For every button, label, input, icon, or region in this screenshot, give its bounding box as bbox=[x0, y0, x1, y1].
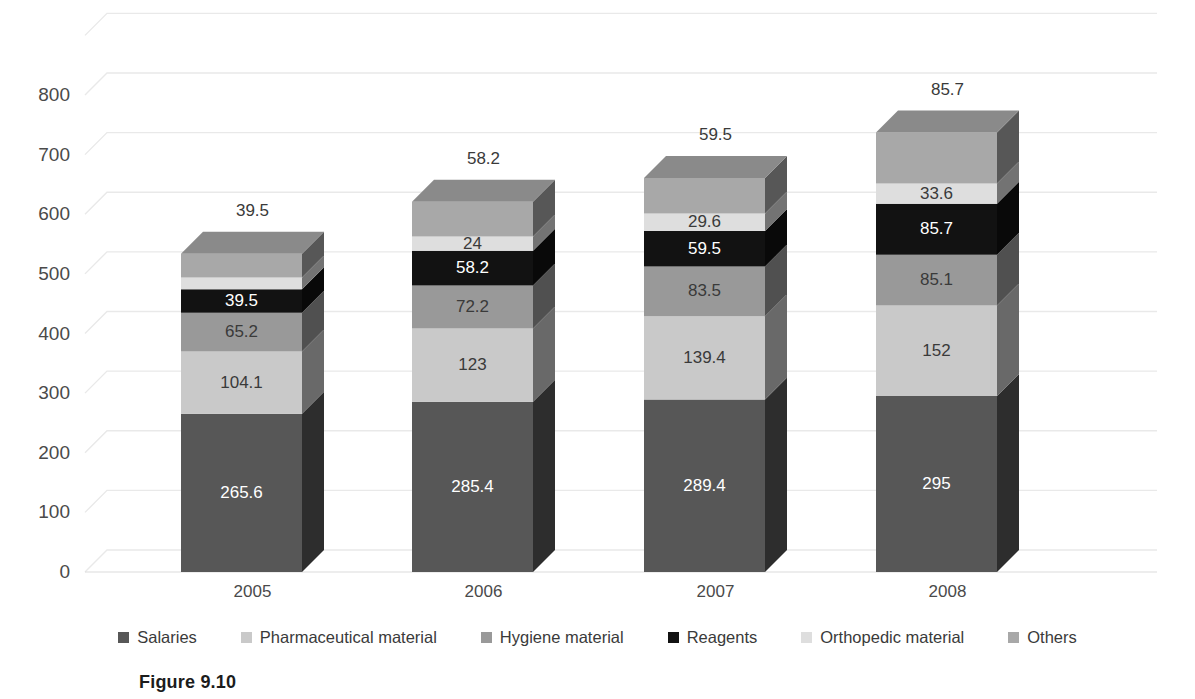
y-axis-tick-label: 700 bbox=[0, 145, 70, 164]
legend-swatch-icon bbox=[118, 632, 129, 643]
bar-total-top-label: 85.7 bbox=[887, 81, 1008, 98]
bar-total-top-label: 39.5 bbox=[192, 202, 313, 219]
y-axis-tick-label: 400 bbox=[0, 324, 70, 343]
bar-segment-front bbox=[181, 254, 302, 278]
bar-column bbox=[412, 180, 555, 572]
bar-total-top-label: 58.2 bbox=[423, 150, 544, 167]
bars-group bbox=[181, 111, 1019, 572]
bar-segment-side bbox=[533, 380, 555, 572]
x-axis-tick-label-2008: 2008 bbox=[858, 583, 1038, 600]
legend-label: Salaries bbox=[137, 629, 197, 646]
chart-figure: 0100200300400500600700800 20052006200720… bbox=[0, 0, 1195, 699]
chart-legend: SalariesPharmaceutical materialHygiene m… bbox=[0, 624, 1195, 650]
legend-item-hygiene-material[interactable]: Hygiene material bbox=[481, 629, 624, 646]
legend-label: Pharmaceutical material bbox=[260, 629, 437, 646]
legend-label: Reagents bbox=[687, 629, 758, 646]
legend-label: Hygiene material bbox=[500, 629, 624, 646]
bar-segment-front bbox=[181, 313, 302, 352]
bar-top-face bbox=[181, 232, 324, 254]
legend-swatch-icon bbox=[668, 632, 679, 643]
y-axis-tick-label: 0 bbox=[0, 562, 70, 581]
legend-label: Orthopedic material bbox=[820, 629, 964, 646]
bar-segment-front bbox=[876, 184, 997, 204]
bar-segment-front bbox=[412, 251, 533, 286]
x-axis-tick-label-2006: 2006 bbox=[394, 583, 574, 600]
legend-label: Others bbox=[1027, 629, 1077, 646]
legend-item-orthopedic-material[interactable]: Orthopedic material bbox=[801, 629, 964, 646]
bar-segment-front bbox=[876, 133, 997, 184]
x-axis-tick-label-2005: 2005 bbox=[163, 583, 343, 600]
bar-segment-front bbox=[181, 277, 302, 289]
bar-segment-front bbox=[876, 396, 997, 572]
bar-segment-front bbox=[181, 352, 302, 414]
bar-segment-front bbox=[412, 236, 533, 250]
bar-column bbox=[181, 232, 324, 572]
bar-column bbox=[876, 111, 1019, 572]
bar-segment-front bbox=[876, 305, 997, 396]
bar-segment-front bbox=[181, 289, 302, 313]
bar-segment-front bbox=[644, 267, 765, 317]
bar-total-top-label: 59.5 bbox=[655, 126, 776, 143]
y-axis-tick-label: 100 bbox=[0, 502, 70, 521]
bar-segment-front bbox=[876, 255, 997, 306]
bar-segment-side bbox=[302, 392, 324, 572]
legend-item-salaries[interactable]: Salaries bbox=[118, 629, 197, 646]
bar-segment-front bbox=[181, 414, 302, 572]
legend-swatch-icon bbox=[1008, 632, 1019, 643]
legend-swatch-icon bbox=[241, 632, 252, 643]
x-axis-tick-label-2007: 2007 bbox=[626, 583, 806, 600]
bar-segment-front bbox=[412, 202, 533, 237]
bar-segment-front bbox=[412, 402, 533, 572]
gridline bbox=[85, 13, 1157, 35]
legend-item-pharmaceutical-material[interactable]: Pharmaceutical material bbox=[241, 629, 437, 646]
bar-segment-front bbox=[644, 231, 765, 266]
bar-segment-side bbox=[997, 374, 1019, 572]
bar-segment-front bbox=[412, 328, 533, 401]
bar-segment-front bbox=[644, 178, 765, 213]
legend-item-others[interactable]: Others bbox=[1008, 629, 1077, 646]
bar-top-face bbox=[412, 180, 555, 202]
legend-item-reagents[interactable]: Reagents bbox=[668, 629, 758, 646]
bar-segment-front bbox=[644, 213, 765, 231]
bar-column bbox=[644, 156, 787, 572]
legend-swatch-icon bbox=[801, 632, 812, 643]
bar-segment-front bbox=[644, 316, 765, 399]
y-axis-tick-label: 800 bbox=[0, 85, 70, 104]
figure-caption: Figure 9.10 bbox=[139, 672, 236, 693]
bar-segment-front bbox=[412, 285, 533, 328]
bar-segment-side bbox=[765, 377, 787, 572]
y-axis-tick-label: 200 bbox=[0, 443, 70, 462]
bar-segment-front bbox=[876, 204, 997, 255]
y-axis-tick-label: 300 bbox=[0, 383, 70, 402]
y-axis-tick-label: 600 bbox=[0, 204, 70, 223]
bar-top-face bbox=[644, 156, 787, 178]
legend-swatch-icon bbox=[481, 632, 492, 643]
bar-segment-front bbox=[644, 399, 765, 572]
bar-top-face bbox=[876, 111, 1019, 133]
y-axis-tick-label: 500 bbox=[0, 264, 70, 283]
